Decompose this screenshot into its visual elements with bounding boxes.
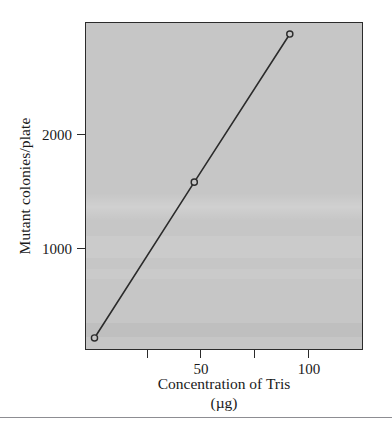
y-tick-2000: 2000: [77, 134, 86, 135]
y-tick-label-1000: 1000: [42, 242, 72, 257]
x-tick-25: [147, 349, 148, 358]
plot-canvas: [86, 23, 362, 349]
figure: Mutant colonies/plate 2000 1000 50 100: [0, 0, 392, 430]
y-tick-1000: 1000: [77, 248, 86, 249]
bottom-divider: [0, 417, 392, 418]
y-axis-title: Mutant colonies/plate: [14, 22, 36, 350]
x-axis-unit-text: (µg): [85, 393, 363, 412]
data-point-marker: [191, 179, 197, 185]
x-tick-50: 50: [200, 349, 201, 358]
y-tick-label-2000: 2000: [42, 128, 72, 143]
data-point-marker: [287, 31, 293, 37]
x-tick-75: [254, 349, 255, 358]
data-series-line: [94, 34, 289, 338]
x-tick-100: 100: [308, 349, 309, 358]
y-axis-title-text: Mutant colonies/plate: [16, 118, 34, 255]
x-axis-title: Concentration of Tris (µg): [85, 374, 363, 412]
data-point-marker: [91, 335, 97, 341]
plot-area: 2000 1000 50 100: [85, 22, 363, 350]
x-axis-title-text: Concentration of Tris: [158, 375, 291, 392]
